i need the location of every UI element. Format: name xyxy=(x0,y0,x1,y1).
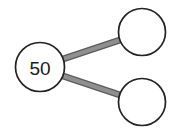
node-part-bottom[interactable] xyxy=(119,79,166,126)
connector-whole-to-part-bottom xyxy=(63,76,120,95)
node-whole[interactable]: 50 xyxy=(16,43,65,92)
number-bond-diagram: 50 xyxy=(0,0,178,132)
node-part-top[interactable] xyxy=(119,9,166,56)
node-part-top-circle[interactable] xyxy=(119,9,166,56)
connector-line-bottom xyxy=(63,76,120,95)
connector-whole-to-part-top xyxy=(63,40,120,59)
diagram-canvas: 50 xyxy=(0,0,178,132)
node-part-bottom-circle[interactable] xyxy=(119,79,166,126)
node-whole-label: 50 xyxy=(29,58,50,79)
connector-line-top xyxy=(63,40,120,59)
